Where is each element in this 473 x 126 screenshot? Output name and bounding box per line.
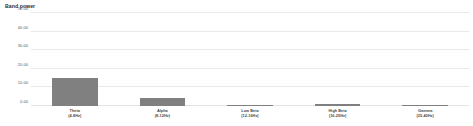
band-range: (16-25Hz) — [328, 114, 346, 119]
x-axis-category-label: High Beta(16-25Hz) — [328, 109, 346, 118]
bars-layer: Theta(4-8Hz)Alpha(8-12Hz)Low Beta(12-16H… — [31, 13, 469, 106]
plot-area: 0.0010.0020.0030.0040.0050.00 Theta(4-8H… — [31, 13, 469, 106]
x-axis-category-label: Low Beta(12-16Hz) — [241, 109, 258, 118]
y-axis-tick-label: 50.00 — [18, 6, 28, 11]
bar[interactable] — [52, 78, 98, 106]
band-power-chart: Band power 0.0010.0020.0030.0040.0050.00… — [0, 0, 473, 126]
y-axis-tick-label: 0.00 — [20, 99, 28, 104]
bar-group[interactable]: Theta(4-8Hz) — [52, 13, 98, 106]
band-range: (8-12Hz) — [155, 114, 170, 119]
y-axis-tick-label: 10.00 — [18, 80, 28, 85]
bar[interactable] — [315, 104, 361, 106]
x-axis-category-label: Alpha(8-12Hz) — [155, 109, 170, 118]
bar-group[interactable]: Alpha(8-12Hz) — [140, 13, 186, 106]
bar-group[interactable]: High Beta(16-25Hz) — [315, 13, 361, 106]
x-axis-category-label: Gamma(25-40Hz) — [417, 109, 434, 118]
bar[interactable] — [140, 98, 186, 106]
bar-group[interactable]: Gamma(25-40Hz) — [402, 13, 448, 106]
band-range: (12-16Hz) — [241, 114, 258, 119]
y-axis-tick-label: 40.00 — [18, 24, 28, 29]
bar[interactable] — [227, 105, 273, 106]
bar[interactable] — [402, 105, 448, 106]
x-axis-category-label: Theta(4-8Hz) — [68, 109, 81, 118]
band-range: (4-8Hz) — [68, 114, 81, 119]
y-axis-tick-label: 30.00 — [18, 43, 28, 48]
band-range: (25-40Hz) — [417, 114, 434, 119]
bar-group[interactable]: Low Beta(12-16Hz) — [227, 13, 273, 106]
y-axis-tick-label: 20.00 — [18, 61, 28, 66]
